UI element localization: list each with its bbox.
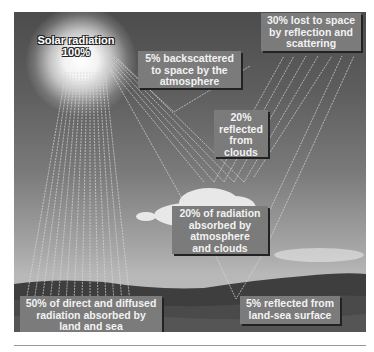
surface-reflected-label: 5% reflected from land-sea surface	[240, 296, 340, 324]
solar-label-text: Solar radiation	[36, 35, 116, 47]
solar-radiation-label: Solar radiation 100%	[36, 35, 116, 58]
label-line: atmosphere	[176, 231, 264, 243]
label-line: scattering	[265, 38, 357, 50]
backscatter-label: 5% backscattered to space by the atmosph…	[138, 51, 241, 88]
label-line: clouds	[218, 147, 264, 159]
lost-to-space-label: 30% lost to space by reflection and scat…	[261, 13, 361, 51]
label-line: 50% of direct and diffused	[24, 298, 158, 310]
label-line: land and sea	[24, 321, 158, 332]
diagram-panel: Solar radiation 100% 5% backscattered to…	[14, 12, 366, 332]
solar-value-text: 100%	[36, 47, 116, 59]
clouds-reflected-label: 20% reflected from clouds	[214, 110, 268, 157]
label-line: 20%	[218, 112, 264, 124]
label-line: and clouds	[176, 243, 264, 255]
absorbed-atmosphere-label: 20% of radiation absorbed by atmosphere …	[172, 206, 268, 254]
label-line: 30% lost to space	[265, 15, 357, 27]
label-line: 5% reflected from	[244, 298, 336, 310]
label-line: 5% backscattered	[142, 53, 237, 65]
label-line: atmosphere	[142, 76, 237, 88]
label-line: 20% of radiation	[176, 208, 264, 220]
bottom-divider	[14, 345, 366, 346]
label-line: from	[218, 135, 264, 147]
label-line: land-sea surface	[244, 310, 336, 322]
absorbed-surface-label: 50% of direct and diffused radiation abs…	[20, 296, 162, 332]
